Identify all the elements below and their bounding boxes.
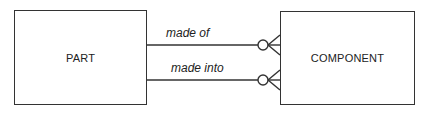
relationship-made-into-label: made into [171, 61, 224, 75]
zero-optionality-icon [258, 40, 268, 50]
crows-foot-many-icon [268, 35, 280, 55]
relationship-connectors [0, 0, 428, 116]
zero-optionality-icon [258, 75, 268, 85]
crows-foot-many-icon [268, 70, 280, 90]
relationship-made-of-label: made of [166, 26, 209, 40]
